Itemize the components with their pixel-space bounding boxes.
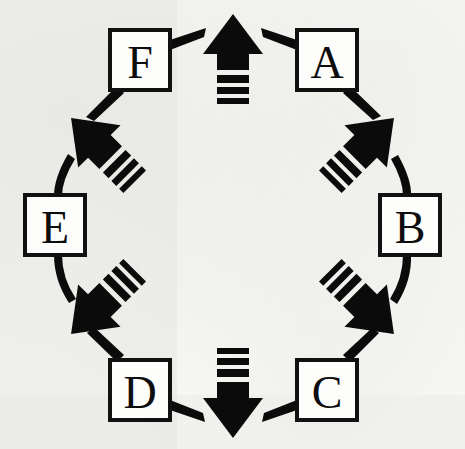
node-box-b[interactable]: B	[380, 195, 440, 255]
node-box-d[interactable]: D	[110, 360, 170, 420]
cycle-diagram-canvas: F A B C D E	[0, 0, 465, 449]
node-box-f[interactable]: F	[110, 30, 170, 90]
connector-b-to-lr	[390, 255, 411, 304]
connector-f-to-top	[170, 28, 206, 50]
arrow-bottom	[203, 348, 263, 438]
arrow-top	[203, 14, 263, 104]
node-box-c[interactable]: C	[297, 360, 357, 420]
arrow-upper-right	[309, 97, 415, 203]
node-label-d: D	[123, 367, 156, 418]
connector-d-to-bottom	[170, 400, 205, 422]
connector-e-to-ul	[54, 154, 75, 196]
connector-ll-to-e	[54, 255, 76, 303]
cycle-diagram-figure: F A B C D E	[0, 0, 465, 449]
connector-c-to-bottom	[262, 400, 297, 422]
node-label-a: A	[310, 37, 343, 88]
connector-ur-to-b	[391, 155, 411, 196]
node-label-c: C	[312, 367, 343, 418]
arrow-upper-left	[50, 97, 156, 203]
connector-lr-to-c	[343, 328, 379, 362]
node-box-a[interactable]: A	[297, 30, 357, 90]
node-label-e: E	[41, 202, 69, 253]
node-box-e[interactable]: E	[25, 195, 85, 255]
connector-d-to-ll	[87, 327, 124, 362]
node-label-f: F	[127, 37, 153, 88]
node-label-b: B	[395, 202, 426, 253]
arrows-layer	[50, 14, 415, 438]
connector-a-to-top	[261, 28, 297, 50]
